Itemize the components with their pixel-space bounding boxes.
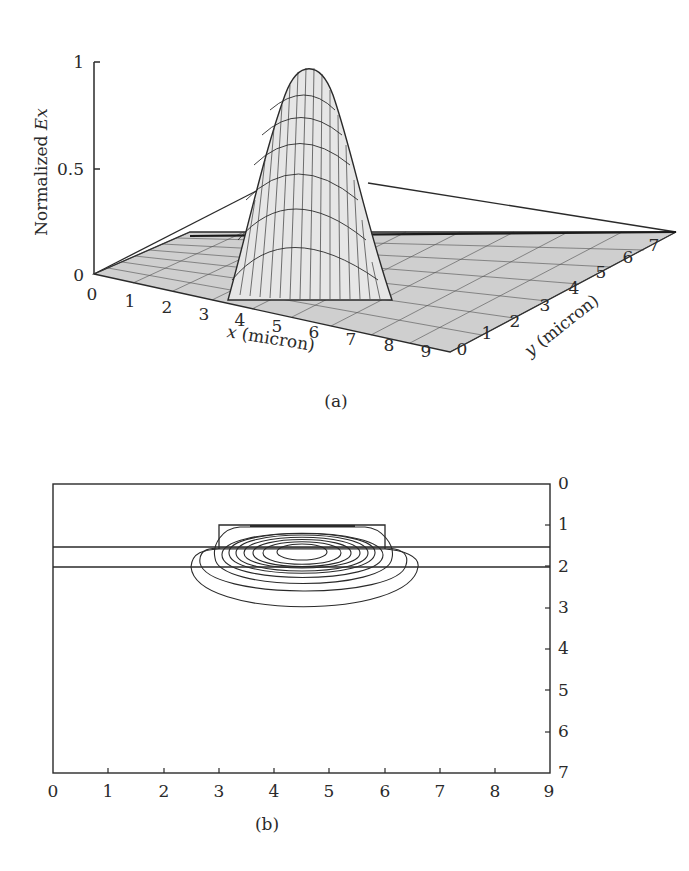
- svg-text:5: 5: [324, 781, 335, 801]
- svg-text:5: 5: [558, 680, 569, 700]
- figure: 1 0.5 0 Normalized Ex: [0, 0, 689, 871]
- svg-text:0: 0: [48, 781, 59, 801]
- svg-text:7: 7: [558, 762, 569, 782]
- svg-text:6: 6: [558, 721, 569, 741]
- z-tick: 0: [73, 265, 84, 285]
- z-tick: 0.5: [57, 159, 84, 179]
- svg-text:9: 9: [421, 341, 432, 361]
- svg-text:2: 2: [162, 297, 173, 317]
- svg-text:1: 1: [558, 514, 569, 534]
- svg-text:6: 6: [380, 781, 391, 801]
- z-tick: 1: [73, 52, 84, 72]
- svg-text:0: 0: [558, 473, 569, 493]
- svg-text:3: 3: [214, 781, 225, 801]
- svg-text:2: 2: [159, 781, 170, 801]
- svg-text:9: 9: [544, 781, 555, 801]
- svg-text:1: 1: [482, 323, 493, 343]
- svg-text:3: 3: [540, 295, 551, 315]
- surface-peak: [228, 69, 392, 300]
- svg-text:2: 2: [558, 556, 569, 576]
- contour-plot: 0 1 2 3 4 5 6 7 8 9 0 1 2 3 4 5 6 7: [48, 473, 569, 801]
- svg-text:5: 5: [596, 262, 607, 282]
- y-ticks-2d: 0 1 2 3 4 5 6 7: [558, 473, 569, 782]
- svg-text:7: 7: [649, 235, 660, 255]
- svg-text:7: 7: [435, 781, 446, 801]
- caption-b: (b): [255, 814, 279, 834]
- svg-text:1: 1: [103, 781, 114, 801]
- svg-text:2: 2: [510, 311, 521, 331]
- svg-text:8: 8: [490, 781, 501, 801]
- svg-text:0: 0: [457, 339, 468, 359]
- svg-text:1: 1: [125, 291, 136, 311]
- caption-a: (a): [324, 391, 347, 411]
- x-ticks-2d: 0 1 2 3 4 5 6 7 8 9: [48, 781, 555, 801]
- svg-text:6: 6: [623, 247, 634, 267]
- svg-text:8: 8: [384, 335, 395, 355]
- svg-text:3: 3: [199, 304, 210, 324]
- svg-text:0: 0: [87, 284, 98, 304]
- svg-text:4: 4: [269, 781, 280, 801]
- svg-text:4: 4: [558, 638, 569, 658]
- surface-plot: 1 0.5 0 Normalized Ex: [31, 52, 676, 361]
- svg-text:7: 7: [346, 329, 357, 349]
- svg-text:3: 3: [558, 597, 569, 617]
- svg-text:4: 4: [569, 278, 580, 298]
- z-axis-label: Normalized Ex: [31, 108, 51, 236]
